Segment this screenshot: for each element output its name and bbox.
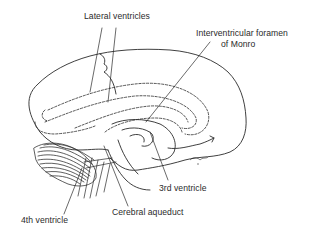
label-cerebral-aqueduct: Cerebral aqueduct (112, 208, 184, 217)
cerebrum-outline (29, 49, 246, 170)
leader-third-ventricle (150, 132, 168, 180)
label-fourth-ventricle: 4th ventricle (21, 216, 68, 225)
third-ventricle-inner (122, 128, 153, 146)
corpus-callosum-dashed (75, 106, 188, 128)
leader-lateral-ventricles-2 (108, 28, 116, 102)
label-lateral-ventricles: Lateral ventricles (84, 12, 150, 21)
label-interventricular-foramen: Interventricular foramen (196, 29, 288, 38)
leader-lateral-ventricles-1 (90, 28, 102, 92)
leader-foramen-monro (146, 42, 210, 122)
temporal-horn-dashed (42, 110, 48, 121)
label-third-ventricle: 3rd ventricle (159, 184, 206, 193)
lateral-ventricle-inner-dashed (45, 96, 196, 129)
lateral-ventricle-dashed (48, 83, 209, 135)
label-of-monro: of Monro (221, 40, 255, 49)
brain-ventricles-diagram: Lateral ventricles Interventricular fora… (0, 0, 311, 237)
third-ventricle-outline (112, 120, 175, 161)
lateral-ventricle-detail (100, 54, 116, 94)
temporal-lobe-outline (40, 132, 108, 150)
